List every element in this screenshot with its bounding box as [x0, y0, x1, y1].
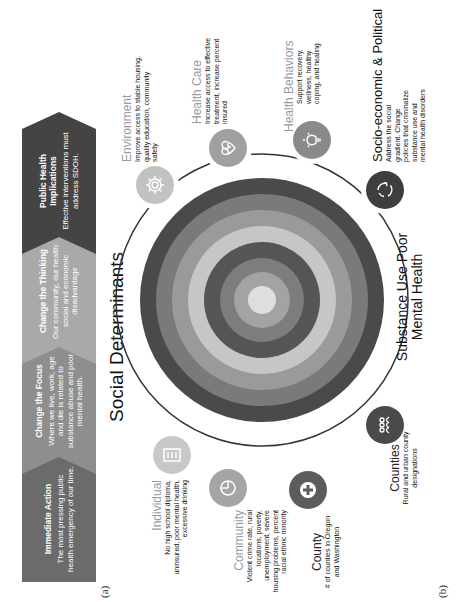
node-health-behaviors-text: Health Behaviors Support recovery, welln… [282, 2, 322, 132]
node-description: Support recovery, wellness, healthy copi… [296, 34, 322, 104]
node-individual [153, 436, 191, 474]
node-environment-text: Environment Improve access to stable hou… [120, 52, 160, 162]
node-title: County [310, 512, 324, 592]
checklist-icon [160, 443, 184, 467]
node-title: Socio-economic & Political [370, 2, 385, 162]
node-community [209, 469, 247, 507]
node-county [289, 471, 327, 509]
node-socio-economic-political [366, 171, 404, 209]
plus-cross-icon [296, 478, 320, 502]
node-description: Violent crime rate, rural locations, pov… [246, 510, 289, 602]
node-county-text: County # of counties in Oregon and Washi… [310, 512, 341, 592]
node-community-text: Community Violent crime rate, rural loca… [232, 510, 289, 602]
node-title: Counties [388, 430, 402, 506]
node-title: Health Care [190, 24, 204, 124]
node-description: Increase access to effective treatment, … [204, 24, 230, 124]
node-socio-economic-political-text: Socio-economic & Political Address the s… [370, 2, 428, 162]
figure: Immediate Action The most pressing publi… [0, 0, 461, 602]
cycle-arrows-icon [373, 178, 397, 202]
center-label: Substance Use Poor Mental Health [395, 222, 425, 372]
node-counties-text: Counties Rural and urban county designat… [388, 430, 419, 506]
node-health-care [209, 129, 247, 167]
heart-pulse-icon [216, 136, 240, 160]
node-environment [136, 166, 174, 204]
pie-chart-icon [216, 476, 240, 500]
node-description: # of counties in Oregon and Washington [324, 512, 341, 592]
gear-icon [143, 173, 167, 197]
panel-b-label: (b) [436, 585, 448, 598]
node-title: Community [232, 510, 246, 602]
node-description: No high school diploma, uninsured, poor … [164, 480, 190, 580]
node-health-care-text: Health Care Increase access to effective… [190, 24, 230, 124]
node-description: Rural and urban county designations [402, 430, 419, 506]
node-title: Individual [150, 480, 164, 580]
node-title: Environment [120, 52, 134, 162]
node-description: Address the social gradient. Change poli… [385, 87, 428, 162]
node-description: Improve access to stable housing, qualit… [134, 52, 160, 162]
node-title: Health Behaviors [282, 2, 296, 132]
node-individual-text: Individual No high school diploma, unins… [150, 480, 190, 580]
